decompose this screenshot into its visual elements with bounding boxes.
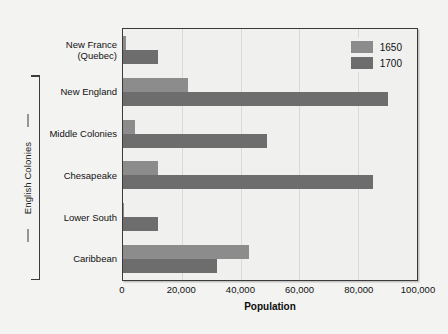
legend-label: 1650 [380,42,402,53]
x-axis-title: Population [122,301,418,312]
category-label: Caribbean [38,238,120,280]
bar-1700 [123,50,158,64]
bar-1650 [123,78,188,92]
category-label-line: Caribbean [73,253,117,264]
category-label-text: New France(Quebec) [66,39,117,61]
category-label: New England [38,71,120,113]
chart-legend: 16501700 [347,38,408,72]
bar-1650 [123,120,135,134]
category-label-line: New France [66,39,117,50]
category-label-text: Middle Colonies [49,128,117,139]
legend-label: 1700 [380,58,402,69]
category-label-text: New England [60,86,117,97]
category-label: New France(Quebec) [38,29,120,71]
bar-group [123,154,417,196]
bar-1650 [123,36,126,50]
x-tick-label: 40,000 [226,284,255,295]
x-tick-label: 80,000 [344,284,373,295]
bar-group [123,71,417,113]
x-tick-label: 0 [119,284,124,295]
category-label-text: Chesapeake [64,170,117,181]
x-tick-label: 20,000 [167,284,196,295]
legend-item: 1650 [351,41,402,53]
bracket-label: English Colonies [22,113,33,243]
category-label-line: Middle Colonies [49,128,117,139]
category-label: Middle Colonies [38,113,120,155]
bar-1700 [123,259,217,273]
bar-1650 [123,245,249,259]
category-label-text: Caribbean [73,253,117,264]
category-label-text: Lower South [64,212,117,223]
x-axis-tick-labels: 020,00040,00060,00080,000100,000 [122,284,418,298]
bar-1650 [123,161,158,175]
bar-1650 [123,203,124,217]
plot-area: 16501700 [122,28,418,281]
category-label-line: Lower South [64,212,117,223]
bar-1700 [123,175,373,189]
category-label-line: New England [60,86,117,97]
bar-1700 [123,92,388,106]
english-colonies-bracket: English Colonies [18,75,40,280]
bar-group [123,113,417,155]
bar-group [123,196,417,238]
category-label: Chesapeake [38,154,120,196]
legend-item: 1700 [351,57,402,69]
bar-1700 [123,134,267,148]
category-label-line: (Quebec) [66,50,117,61]
x-tick-label: 60,000 [285,284,314,295]
legend-swatch-1700 [351,57,373,69]
bar-group [123,238,417,280]
legend-swatch-1650 [351,41,373,53]
category-axis-labels: New France(Quebec)New EnglandMiddle Colo… [38,29,120,280]
bar-1700 [123,217,158,231]
population-bar-chart-figure: English Colonies New France(Quebec)New E… [0,0,448,334]
category-label-line: Chesapeake [64,170,117,181]
x-tick-label: 100,000 [401,284,435,295]
category-label: Lower South [38,196,120,238]
